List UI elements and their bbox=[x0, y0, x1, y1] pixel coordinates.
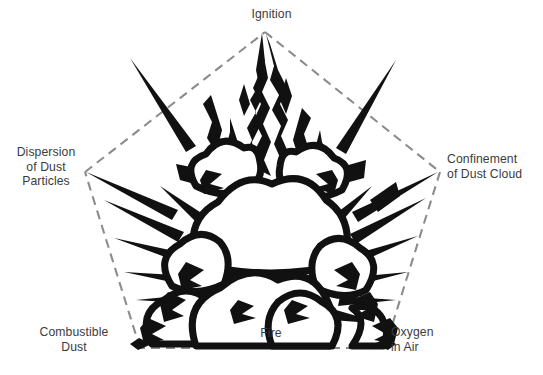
vertex-label-combustible: Combustible Dust bbox=[18, 325, 130, 354]
spike-left-3 bbox=[104, 200, 184, 242]
dust-explosion-illustration bbox=[86, 33, 438, 350]
vertex-label-dispersion: Dispersion of Dust Particles bbox=[8, 145, 84, 189]
edge-combustible-to-dispersion bbox=[85, 172, 140, 348]
diagram-canvas: Ignition Confinement of Dust Cloud Oxyge… bbox=[0, 0, 543, 375]
vertex-label-confinement: Confinement of Dust Cloud bbox=[447, 152, 543, 181]
flame-tip-left bbox=[239, 84, 250, 116]
vertex-label-oxygen: Oxygen in Air bbox=[391, 325, 491, 354]
cloud-lobe-left-shoulder bbox=[165, 234, 229, 291]
spike-left-1 bbox=[130, 58, 196, 152]
center-label-fire: Fire bbox=[223, 326, 319, 341]
vertex-label-ignition: Ignition bbox=[0, 7, 543, 22]
spike-right-1 bbox=[336, 60, 396, 154]
